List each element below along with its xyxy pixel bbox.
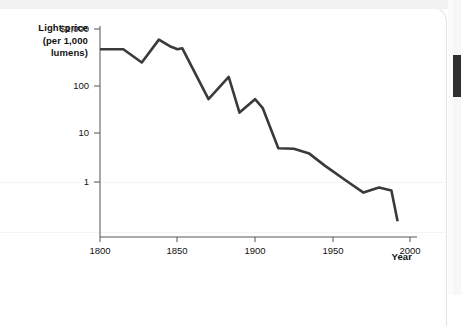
y-tick-label-10: 10 [35, 127, 89, 138]
series-line-light-price [100, 40, 398, 222]
y-axis-title-line-3: lumens) [2, 47, 88, 60]
y-tick-label-1000: $1,000 [35, 23, 89, 34]
x-tick-label-1950: 1950 [309, 245, 357, 256]
y-tick-label-1: 1 [35, 176, 89, 187]
axis-lines [100, 26, 417, 237]
y-axis-title-line-2: (per 1,000 [2, 35, 88, 48]
x-tick-marks [100, 237, 410, 242]
x-tick-label-1850: 1850 [153, 245, 201, 256]
x-tick-label-1900: 1900 [231, 245, 279, 256]
x-axis-title: Year [368, 251, 412, 264]
y-tick-marks [94, 29, 100, 182]
x-tick-label-1800: 1800 [76, 245, 124, 256]
y-tick-label-100: 100 [35, 80, 89, 91]
